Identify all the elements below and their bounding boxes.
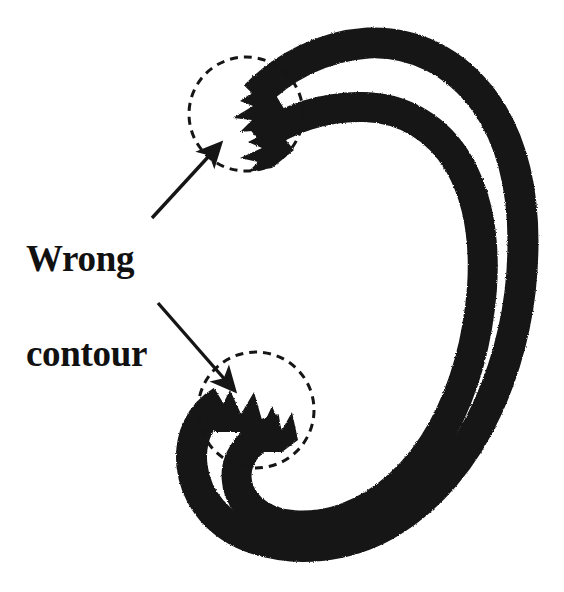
wrong-contour-label-line-1: Wrong bbox=[26, 235, 186, 282]
wrong-contour-label: Wrong contour bbox=[26, 188, 186, 425]
figure-root: Wrong contour bbox=[0, 0, 564, 592]
wrong-contour-label-line-2: contour bbox=[26, 330, 186, 377]
